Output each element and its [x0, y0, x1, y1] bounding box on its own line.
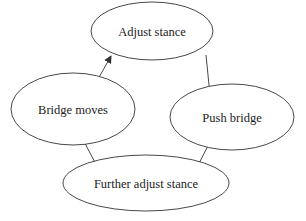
node-further-adjust-stance: Further adjust stance	[63, 155, 229, 211]
node-label: Push bridge	[202, 111, 262, 125]
node-bridge-moves: Bridge moves	[11, 73, 135, 145]
node-label: Further adjust stance	[94, 177, 199, 191]
node-push-bridge: Push bridge	[170, 84, 294, 150]
node-label: Adjust stance	[118, 25, 186, 39]
node-adjust-stance: Adjust stance	[91, 2, 213, 60]
node-label: Bridge moves	[38, 103, 108, 117]
cycle-diagram: Adjust stance Push bridge Further adjust…	[0, 0, 306, 221]
